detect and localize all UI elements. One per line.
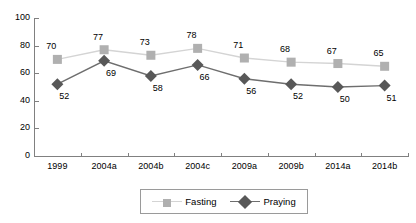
- data-point-praying-2004b: [145, 70, 157, 82]
- value-label-fasting-2009a: 71: [228, 41, 248, 50]
- data-point-praying-2014b: [379, 80, 391, 92]
- data-point-praying-2004c: [192, 59, 204, 71]
- value-label-fasting-2009b: 68: [275, 45, 295, 54]
- value-label-fasting-2004a: 77: [88, 33, 108, 42]
- data-point-fasting-1999: [53, 55, 62, 64]
- data-point-fasting-2009a: [240, 54, 249, 63]
- value-label-fasting-2004b: 73: [135, 38, 155, 47]
- value-label-praying-2014b: 51: [382, 94, 402, 103]
- value-label-praying-2014a: 50: [335, 95, 355, 104]
- data-point-fasting-2004c: [193, 44, 202, 53]
- legend-swatch-square-icon: [152, 196, 182, 208]
- value-label-fasting-2014a: 67: [322, 47, 342, 56]
- value-label-fasting-1999: 70: [41, 42, 61, 51]
- data-point-praying-2009b: [285, 78, 297, 90]
- value-label-praying-2009b: 52: [288, 92, 308, 101]
- value-label-fasting-2014b: 65: [369, 49, 389, 58]
- data-point-fasting-2014a: [333, 59, 342, 68]
- data-point-fasting-2014b: [380, 62, 389, 71]
- legend-label-praying: Praying: [263, 197, 295, 207]
- data-point-praying-2014a: [332, 81, 344, 93]
- line-chart: 020406080100 19992004a2004b2004c2009a200…: [0, 0, 416, 223]
- data-point-fasting-2004a: [100, 45, 109, 54]
- value-label-praying-2004a: 69: [101, 69, 121, 78]
- value-label-praying-2004b: 58: [148, 84, 168, 93]
- data-point-fasting-2009b: [287, 58, 296, 67]
- chart-legend: Fasting Praying: [140, 189, 308, 214]
- data-point-praying-2004a: [98, 55, 110, 67]
- value-label-praying-2004c: 66: [195, 73, 215, 82]
- legend-item-praying[interactable]: Praying: [230, 196, 295, 208]
- data-point-praying-2009a: [238, 73, 250, 85]
- value-label-fasting-2004c: 78: [182, 31, 202, 40]
- legend-label-fasting: Fasting: [185, 197, 216, 207]
- legend-swatch-diamond-icon: [230, 196, 260, 208]
- legend-item-fasting[interactable]: Fasting: [152, 196, 216, 208]
- data-point-praying-1999: [51, 78, 63, 90]
- value-label-praying-2009a: 56: [241, 87, 261, 96]
- data-point-fasting-2004b: [146, 51, 155, 60]
- value-label-praying-1999: 52: [54, 92, 74, 101]
